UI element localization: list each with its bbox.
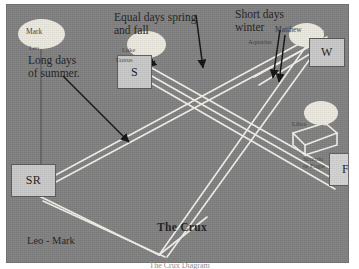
box-label-f: F xyxy=(342,162,349,177)
figure-caption: The Crux Diagram xyxy=(0,261,359,269)
winter-solstice-box[interactable]: W xyxy=(309,38,345,67)
label-scorpio: Scorpio or Eagle xyxy=(303,155,325,170)
label-taurus: Taurus xyxy=(115,56,133,63)
diagram-plate: S W SR F Mark Leo Luke Taurus Matthew Aq… xyxy=(6,4,349,263)
sunrise-box[interactable]: SR xyxy=(11,164,56,197)
box-label-s: S xyxy=(131,65,138,80)
box-label-w: W xyxy=(321,45,333,60)
annotation-short-days: Short days winter xyxy=(235,8,284,34)
annotation-long-days: Long days of summer. xyxy=(28,54,80,80)
label-leo: Leo xyxy=(29,44,39,51)
figure-page: S W SR F Mark Leo Luke Taurus Matthew Aq… xyxy=(0,0,359,269)
label-luke: Luke xyxy=(122,46,135,53)
box-label-sr: SR xyxy=(26,173,42,188)
label-mark: Mark xyxy=(26,28,42,37)
arrow-short-days-2 xyxy=(279,35,285,82)
arrow-equal-days xyxy=(196,15,203,68)
label-libra: Libra xyxy=(292,120,306,127)
label-the-crux: The Crux xyxy=(157,221,207,234)
fall-box[interactable]: F xyxy=(329,153,349,186)
annotation-equal-days: Equal days spring and fall xyxy=(114,11,196,37)
label-aquarius: Aquarius xyxy=(248,38,272,45)
label-leo-mark: Leo - Mark xyxy=(27,235,75,247)
arrow-short-days xyxy=(273,30,280,78)
